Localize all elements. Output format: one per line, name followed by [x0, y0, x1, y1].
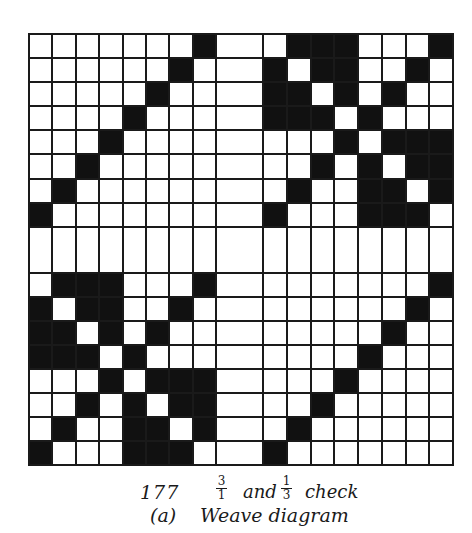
- grid-cell-empty: [169, 203, 192, 227]
- grid-cell-empty: [358, 130, 382, 154]
- grid-spacer-cell: [334, 227, 358, 273]
- grid-cell-empty: [123, 179, 146, 203]
- grid-cell-empty: [429, 441, 453, 465]
- grid-cell-filled: [334, 130, 358, 154]
- grid-cell-empty: [52, 58, 75, 82]
- grid-cell-filled: [193, 417, 216, 441]
- grid-cell-filled: [358, 203, 382, 227]
- grid-cell-empty: [52, 441, 75, 465]
- grid-cell-filled: [76, 154, 99, 178]
- grid-cell-empty: [146, 297, 169, 321]
- grid-cell-filled: [429, 130, 453, 154]
- grid-cell-filled: [358, 154, 382, 178]
- grid-cell-empty: [193, 154, 216, 178]
- grid-cell-empty: [146, 106, 169, 130]
- grid-cell-filled: [311, 34, 335, 58]
- grid-cell-empty: [334, 154, 358, 178]
- grid-cell-filled: [263, 441, 287, 465]
- grid-cell-empty: [429, 393, 453, 417]
- grid-cell-empty: [406, 417, 430, 441]
- grid-cell-empty: [193, 82, 216, 106]
- grid-cell-empty: [52, 106, 75, 130]
- grid-cell-empty: [146, 179, 169, 203]
- fraction-denominator: 3: [283, 490, 291, 501]
- grid-cell-empty: [382, 441, 406, 465]
- grid-cell-filled: [382, 130, 406, 154]
- grid-cell-filled: [193, 273, 216, 297]
- figure-number: 177: [140, 481, 179, 503]
- grid-cell-filled: [123, 441, 146, 465]
- grid-cell-filled: [382, 179, 406, 203]
- grid-cell-filled: [99, 369, 122, 393]
- grid-cell-empty: [287, 345, 311, 369]
- grid-cell-empty: [263, 369, 287, 393]
- grid-spacer-cell: [99, 227, 122, 273]
- grid-cell-empty: [52, 369, 75, 393]
- grid-cell-empty: [99, 34, 122, 58]
- grid-cell-empty: [52, 297, 75, 321]
- title-word-check: check: [305, 481, 358, 502]
- grid-cell-filled: [263, 82, 287, 106]
- grid-cell-filled: [29, 203, 52, 227]
- grid-cell-filled: [311, 58, 335, 82]
- grid-cell-filled: [123, 345, 146, 369]
- grid-spacer-cell: [123, 227, 146, 273]
- grid-cell-empty: [29, 369, 52, 393]
- grid-cell-filled: [193, 393, 216, 417]
- grid-cell-empty: [263, 417, 287, 441]
- grid-cell-empty: [29, 58, 52, 82]
- grid-cell-filled: [99, 321, 122, 345]
- grid-cell-filled: [429, 34, 453, 58]
- grid-cell-empty: [311, 417, 335, 441]
- grid-cell-empty: [263, 321, 287, 345]
- grid-spacer-cell: [406, 227, 430, 273]
- grid-cell-filled: [382, 82, 406, 106]
- grid-cell-empty: [146, 273, 169, 297]
- grid-cell-empty: [263, 154, 287, 178]
- fraction-numerator: 1: [283, 476, 291, 487]
- grid-cell-empty: [99, 106, 122, 130]
- grid-cell-filled: [99, 130, 122, 154]
- grid-cell-empty: [99, 417, 122, 441]
- grid-cell-empty: [358, 82, 382, 106]
- grid-cell-empty: [76, 130, 99, 154]
- grid-cell-filled: [287, 106, 311, 130]
- grid-cell-empty: [334, 441, 358, 465]
- grid-cell-filled: [52, 179, 75, 203]
- grid-cell-filled: [334, 369, 358, 393]
- grid-cell-empty: [382, 345, 406, 369]
- subfigure-label: (a): [150, 504, 176, 526]
- grid-cell-empty: [76, 179, 99, 203]
- grid-cell-filled: [193, 369, 216, 393]
- grid-cell-empty: [76, 417, 99, 441]
- grid-cell-filled: [358, 179, 382, 203]
- grid-cell-empty: [382, 393, 406, 417]
- grid-cell-empty: [52, 34, 75, 58]
- grid-cell-empty: [263, 345, 287, 369]
- grid-cell-empty: [52, 130, 75, 154]
- grid-cell-filled: [123, 106, 146, 130]
- grid-cell-empty: [382, 417, 406, 441]
- grid-cell-empty: [406, 321, 430, 345]
- grid-cell-empty: [52, 82, 75, 106]
- grid-cell-empty: [146, 154, 169, 178]
- grid-cell-empty: [382, 58, 406, 82]
- grid-cell-empty: [358, 58, 382, 82]
- grid-cell-empty: [76, 34, 99, 58]
- grid-cell-empty: [123, 297, 146, 321]
- grid-spacer-cell: [169, 227, 192, 273]
- grid-spacer-cell: [216, 34, 263, 58]
- grid-spacer-cell: [216, 58, 263, 82]
- grid-cell-empty: [358, 393, 382, 417]
- grid-cell-empty: [193, 321, 216, 345]
- grid-spacer-cell: [287, 227, 311, 273]
- grid-cell-empty: [287, 441, 311, 465]
- grid-cell-empty: [382, 154, 406, 178]
- grid-cell-empty: [263, 34, 287, 58]
- grid-spacer-cell: [146, 227, 169, 273]
- grid-cell-empty: [29, 273, 52, 297]
- grid-cell-empty: [429, 417, 453, 441]
- grid-cell-filled: [146, 321, 169, 345]
- grid-spacer-cell: [216, 321, 263, 345]
- grid-cell-filled: [358, 106, 382, 130]
